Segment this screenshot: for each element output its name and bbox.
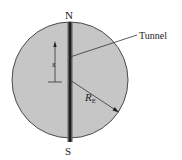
tunnel-core: [69, 22, 71, 142]
tunnel-label: Tunnel: [139, 30, 167, 41]
north-label: N: [65, 9, 73, 21]
south-label: S: [65, 145, 71, 157]
earth-tunnel-diagram: N S Tunnel s RE: [0, 0, 182, 160]
displacement-label: s: [52, 59, 56, 69]
radius-label-subscript: E: [92, 97, 96, 105]
